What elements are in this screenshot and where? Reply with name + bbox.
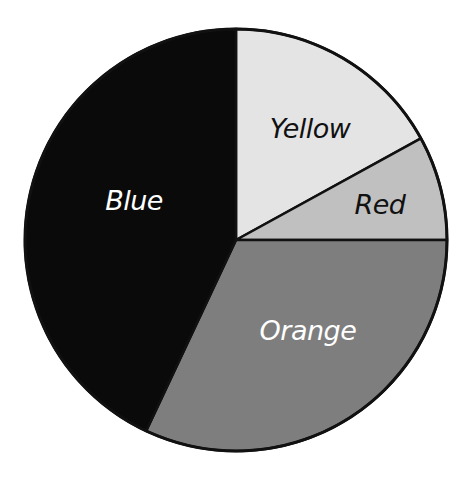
slice-label-yellow: Yellow	[270, 113, 352, 144]
slice-label-orange: Orange	[260, 315, 357, 346]
pie-slices	[25, 29, 447, 451]
slice-label-blue: Blue	[105, 185, 163, 216]
pie-chart: Yellow Red Orange Blue	[0, 0, 470, 481]
slice-label-red: Red	[354, 189, 406, 220]
